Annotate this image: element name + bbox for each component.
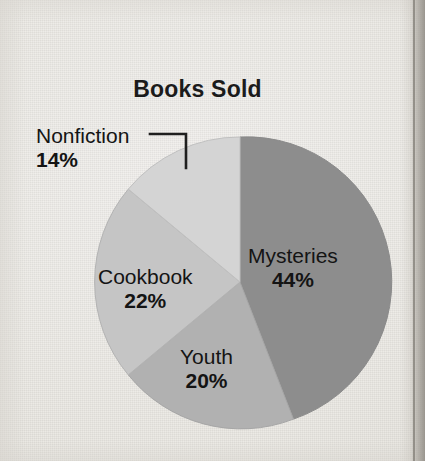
slice-label-youth-name: Youth (180, 345, 233, 369)
slice-label-youth: Youth 20% (180, 345, 233, 392)
slice-label-mysteries: Mysteries 44% (248, 244, 338, 291)
slice-label-nonfiction-name: Nonfiction (36, 124, 129, 148)
slice-label-mysteries-percent: 44% (248, 268, 338, 292)
slice-label-nonfiction: Nonfiction 14% (36, 124, 129, 171)
scanned-page: Books Sold Mysteries 44% Youth 20% Cookb… (0, 0, 425, 461)
slice-label-cookbook: Cookbook 22% (98, 265, 193, 312)
slice-label-mysteries-name: Mysteries (248, 244, 338, 268)
slice-label-youth-percent: 20% (180, 369, 233, 393)
slice-label-cookbook-name: Cookbook (98, 265, 193, 289)
slice-label-nonfiction-percent: 14% (36, 148, 129, 172)
slice-label-cookbook-percent: 22% (98, 289, 193, 313)
